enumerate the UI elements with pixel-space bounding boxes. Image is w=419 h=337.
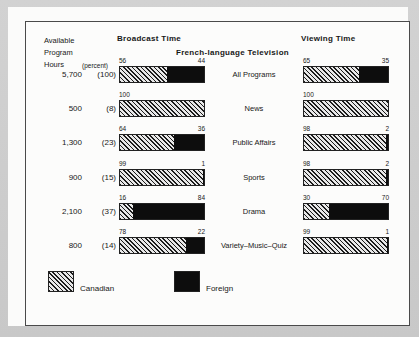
chart-title: French-language Television: [176, 48, 289, 57]
viewing-foreign-segment-drama: [329, 204, 388, 219]
legend-swatch-canadian: [48, 271, 74, 292]
broadcast-bar-drama: [119, 203, 205, 220]
row-label-drama: Drama: [209, 207, 299, 216]
broadcast-canadian-segment-variety-music-quiz: [120, 238, 186, 253]
viewing-bar-sports: [303, 169, 389, 186]
hours-value-news: 500: [36, 104, 82, 113]
viewing-canadian-value-news: 100: [303, 91, 314, 98]
broadcast-foreign-segment-public-affairs: [174, 135, 204, 150]
broadcast-bar-variety-music-quiz: [119, 237, 205, 254]
chart-frame: Available Program Hours (percent) Broadc…: [25, 21, 410, 326]
broadcast-foreign-value-sports: 1: [89, 160, 205, 167]
viewing-canadian-segment-news: [304, 101, 388, 116]
viewing-foreign-segment-sports: [386, 170, 388, 185]
viewing-bar-news: [303, 100, 389, 117]
broadcast-foreign-segment-variety-music-quiz: [186, 238, 204, 253]
viewing-canadian-segment-public-affairs: [304, 135, 386, 150]
broadcast-foreign-value-variety-music-quiz: 22: [89, 228, 205, 235]
broadcast-bar-all-programs: [119, 66, 205, 83]
hours-value-variety-music-quiz: 800: [36, 241, 82, 250]
broadcast-foreign-value-all-programs: 44: [89, 57, 205, 64]
broadcast-foreign-value-drama: 84: [89, 194, 205, 201]
viewing-bar-variety-music-quiz: [303, 237, 389, 254]
broadcast-foreign-segment-drama: [133, 204, 204, 219]
scanned-sheet: Available Program Hours (percent) Broadc…: [8, 7, 408, 326]
viewing-foreign-segment-variety-music-quiz: [387, 238, 388, 253]
broadcast-canadian-segment-sports: [120, 170, 203, 185]
chart-page: Available Program Hours (percent) Broadc…: [0, 0, 419, 337]
viewing-foreign-value-variety-music-quiz: 1: [273, 228, 389, 235]
viewing-foreign-value-sports: 2: [273, 160, 389, 167]
viewing-canadian-segment-all-programs: [304, 67, 359, 82]
row-label-sports: Sports: [209, 173, 299, 182]
row-label-news: News: [209, 104, 299, 113]
broadcast-bar-sports: [119, 169, 205, 186]
percent-value-variety-music-quiz: (14): [82, 241, 116, 250]
hours-value-drama: 2,100: [36, 207, 82, 216]
viewing-bar-public-affairs: [303, 134, 389, 151]
broadcast-bar-news: [119, 100, 205, 117]
viewing-foreign-value-all-programs: 35: [273, 57, 389, 64]
legend-swatch-foreign: [174, 271, 200, 292]
broadcast-canadian-segment-public-affairs: [120, 135, 174, 150]
viewing-bar-all-programs: [303, 66, 389, 83]
row-label-public-affairs: Public Affairs: [209, 138, 299, 147]
broadcast-canadian-segment-drama: [120, 204, 133, 219]
broadcast-canadian-value-news: 100: [119, 91, 130, 98]
broadcast-foreign-segment-all-programs: [167, 67, 204, 82]
percent-value-news: (8): [82, 104, 116, 113]
available-hours-header-line2: Program: [44, 48, 73, 57]
broadcast-bar-public-affairs: [119, 134, 205, 151]
row-label-all-programs: All Programs: [209, 70, 299, 79]
broadcast-foreign-segment-sports: [203, 170, 204, 185]
percent-value-all-programs: (100): [82, 70, 116, 79]
viewing-foreign-value-public-affairs: 2: [273, 125, 389, 132]
percent-value-public-affairs: (23): [82, 138, 116, 147]
viewing-foreign-segment-public-affairs: [386, 135, 388, 150]
available-hours-header-line3: Hours: [44, 60, 64, 69]
viewing-foreign-segment-all-programs: [359, 67, 388, 82]
viewing-canadian-segment-drama: [304, 204, 329, 219]
legend-label-foreign: Foreign: [206, 284, 233, 293]
available-hours-header-line1: Available: [44, 36, 74, 45]
percent-value-drama: (37): [82, 207, 116, 216]
broadcast-canadian-segment-news: [120, 101, 204, 116]
hours-value-all-programs: 5,700: [36, 70, 82, 79]
viewing-canadian-segment-sports: [304, 170, 386, 185]
hours-value-sports: 900: [36, 173, 82, 182]
percent-value-sports: (15): [82, 173, 116, 182]
broadcast-foreign-value-public-affairs: 36: [89, 125, 205, 132]
viewing-canadian-segment-variety-music-quiz: [304, 238, 387, 253]
broadcast-time-header: Broadcast Time: [117, 34, 181, 43]
viewing-foreign-value-drama: 70: [273, 194, 389, 201]
row-label-variety-music-quiz: Variety–Music–Quiz: [209, 241, 299, 250]
viewing-bar-drama: [303, 203, 389, 220]
broadcast-canadian-segment-all-programs: [120, 67, 167, 82]
legend-label-canadian: Canadian: [80, 284, 114, 293]
viewing-time-header: Viewing Time: [301, 34, 355, 43]
hours-value-public-affairs: 1,300: [36, 138, 82, 147]
